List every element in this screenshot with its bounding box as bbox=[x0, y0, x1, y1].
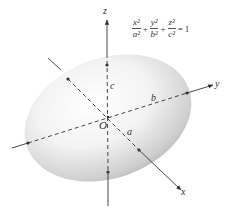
vertex-y-left bbox=[26, 141, 29, 144]
semi-axis-b-label: b bbox=[151, 92, 156, 103]
z-axis-label: z bbox=[103, 5, 107, 16]
equals-sign: = bbox=[178, 24, 183, 34]
term-z: z² c² bbox=[168, 18, 176, 39]
semi-axis-a-label: a bbox=[127, 126, 132, 137]
equation-rhs: 1 bbox=[185, 24, 190, 34]
plus-sign: + bbox=[143, 24, 148, 34]
x-axis-top bbox=[48, 58, 61, 70]
ellipsoid-equation: x² a² + y² b² + z² c² = 1 bbox=[132, 18, 189, 39]
ellipsoid-figure: x² a² + y² b² + z² c² = 1 z y x O c b a bbox=[0, 0, 226, 217]
x-axis-label: x bbox=[181, 186, 185, 197]
y-axis-left bbox=[12, 143, 28, 148]
origin-point bbox=[107, 116, 110, 119]
term-x: x² a² bbox=[132, 18, 141, 39]
term-z-denominator: c² bbox=[168, 29, 175, 39]
term-y-numerator: y² bbox=[150, 18, 159, 29]
vertex-z-bottom bbox=[106, 170, 109, 173]
vertex-x-front bbox=[137, 148, 140, 151]
ellipsoid-diagram bbox=[0, 0, 226, 217]
term-y: y² b² bbox=[150, 18, 159, 39]
y-axis-right bbox=[187, 85, 213, 93]
vertex-y-right bbox=[185, 91, 188, 94]
vertex-x-back bbox=[66, 77, 69, 80]
term-z-numerator: z² bbox=[168, 18, 176, 29]
plus-sign: + bbox=[160, 24, 165, 34]
vertex-z-top bbox=[105, 63, 108, 66]
origin-label: O bbox=[99, 119, 107, 131]
term-x-denominator: a² bbox=[133, 29, 140, 39]
y-axis-label: y bbox=[215, 78, 219, 89]
term-y-denominator: b² bbox=[151, 29, 158, 39]
term-x-numerator: x² bbox=[132, 18, 141, 29]
semi-axis-c-label: c bbox=[110, 80, 114, 91]
